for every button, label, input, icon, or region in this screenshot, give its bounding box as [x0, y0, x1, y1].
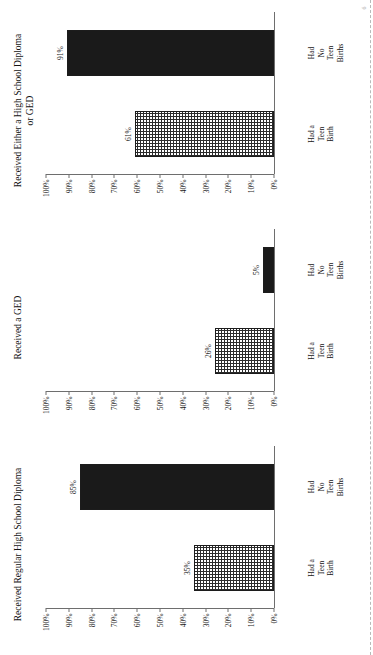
y-tick-mark — [68, 392, 69, 396]
y-tick-mark — [114, 392, 115, 396]
x-label-line: Teen — [317, 545, 327, 591]
y-tick-mark — [228, 392, 229, 396]
x-axis-labels: Had a Teen Birth Had No Teen Births — [307, 230, 345, 426]
x-label-teen-birth: Had a Teen Birth — [307, 111, 345, 157]
y-tick-mark — [274, 175, 275, 179]
bar-slot: 5% — [46, 247, 274, 293]
bar-slot: 91% — [46, 30, 274, 76]
bar-no-teen-births — [263, 247, 274, 293]
bar-no-teen-births — [67, 30, 274, 76]
page-marker: 6 — [361, 6, 367, 10]
y-tick-label: 80% — [87, 614, 96, 628]
y-tick-mark — [137, 609, 138, 613]
plot-area: 100% 90% 80% 70% 60% 50% 40% 30% — [46, 230, 304, 426]
y-tick-mark — [46, 609, 47, 613]
y-tick-label: 70% — [110, 180, 119, 194]
chart-panel-regular-high-school-diploma: Received Regular High School Diploma 100… — [10, 442, 345, 647]
bar-value-label: 35% — [183, 561, 192, 575]
bar-slot: 85% — [46, 464, 274, 510]
y-tick-mark — [251, 609, 252, 613]
y-tick-mark — [205, 392, 206, 396]
y-tick-label: 20% — [224, 397, 233, 411]
x-label-line: Had a — [307, 328, 317, 374]
x-label-row: Had a Teen Birth Had No Teen Births — [307, 230, 345, 392]
y-tick-mark — [205, 609, 206, 613]
bar-value-label: 91% — [56, 46, 65, 60]
y-tick-label: 30% — [201, 180, 210, 194]
bar-teen-birth — [215, 328, 274, 374]
x-label-line: Teen — [317, 111, 327, 157]
y-tick-label: 100% — [42, 180, 51, 198]
chart-title: Received a GED — [12, 296, 36, 360]
y-tick-mark — [160, 609, 161, 613]
y-tick-label: 40% — [178, 180, 187, 194]
x-label-no-teen-births: Had No Teen Births — [307, 464, 345, 510]
y-tick-mark — [160, 175, 161, 179]
y-tick-mark — [274, 392, 275, 396]
y-axis: 100% 90% 80% 70% 60% 50% 40% 30% — [46, 609, 274, 643]
x-label-line: Had a — [307, 111, 317, 157]
x-label-spacer — [307, 609, 345, 643]
x-label-line: Birth — [326, 111, 336, 157]
y-tick-label: 0% — [270, 180, 279, 190]
chart-panel-ged: Received a GED 100% 90% 80% 70% 60% 50% — [10, 225, 345, 430]
y-tick-mark — [251, 175, 252, 179]
x-label-line: No — [317, 30, 327, 76]
y-tick-mark — [46, 175, 47, 179]
x-label-spacer — [307, 175, 345, 209]
chart-panel-either-diploma-or-ged: Received Either a High School Diploma or… — [10, 8, 345, 213]
bars-container: 35% 85% — [46, 447, 275, 609]
x-label-line: Had — [307, 30, 317, 76]
y-tick-mark — [46, 392, 47, 396]
y-tick-mark — [114, 175, 115, 179]
x-label-line: Had a — [307, 545, 317, 591]
y-tick-label: 80% — [87, 397, 96, 411]
y-tick-label: 100% — [42, 614, 51, 632]
y-tick-label: 60% — [133, 397, 142, 411]
y-tick-mark — [91, 609, 92, 613]
bar-value-label: 5% — [252, 265, 261, 275]
x-axis-labels: Had a Teen Birth Had No Teen Births — [307, 13, 345, 209]
y-tick-mark — [91, 175, 92, 179]
y-tick-label: 0% — [270, 614, 279, 624]
bar-value-label: 85% — [69, 480, 78, 494]
y-tick-label: 10% — [247, 397, 256, 411]
y-tick-label: 90% — [64, 180, 73, 194]
rotated-page-canvas: Received Regular High School Diploma 100… — [0, 0, 373, 655]
y-tick-label: 10% — [247, 614, 256, 628]
y-tick-label: 90% — [64, 614, 73, 628]
page-edge-guide — [370, 0, 371, 655]
y-tick-mark — [91, 392, 92, 396]
x-label-no-teen-births: Had No Teen Births — [307, 30, 345, 76]
y-tick-mark — [114, 609, 115, 613]
y-tick-mark — [251, 392, 252, 396]
y-tick-label: 20% — [224, 614, 233, 628]
x-label-line: No — [317, 247, 327, 293]
bar-value-label: 26% — [204, 344, 213, 358]
y-tick-label: 40% — [178, 614, 187, 628]
x-axis-labels: Had a Teen Birth Had No Teen Births — [307, 447, 345, 643]
y-axis: 100% 90% 80% 70% 60% 50% 40% 30% — [46, 175, 274, 209]
x-label-line: Teen — [326, 247, 336, 293]
x-label-line: Births — [336, 247, 346, 293]
bar-slot: 35% — [46, 545, 274, 591]
y-tick-label: 50% — [156, 614, 165, 628]
x-label-spacer — [307, 392, 345, 426]
figure-sheet: Received Regular High School Diploma 100… — [0, 0, 373, 655]
y-tick-label: 40% — [178, 397, 187, 411]
y-axis: 100% 90% 80% 70% 60% 50% 40% 30% — [46, 392, 274, 426]
x-label-no-teen-births: Had No Teen Births — [307, 247, 345, 293]
bars-container: 61% 91% — [46, 13, 275, 175]
y-tick-mark — [182, 392, 183, 396]
y-tick-label: 90% — [64, 397, 73, 411]
x-label-line: Births — [336, 464, 346, 510]
y-tick-label: 60% — [133, 614, 142, 628]
bar-teen-birth — [194, 545, 274, 591]
x-label-row: Had a Teen Birth Had No Teen Births — [307, 13, 345, 175]
bar-slot: 61% — [46, 111, 274, 157]
y-tick-label: 20% — [224, 180, 233, 194]
y-tick-label: 30% — [201, 614, 210, 628]
y-tick-mark — [68, 609, 69, 613]
x-label-teen-birth: Had a Teen Birth — [307, 328, 345, 374]
x-label-teen-birth: Had a Teen Birth — [307, 545, 345, 591]
